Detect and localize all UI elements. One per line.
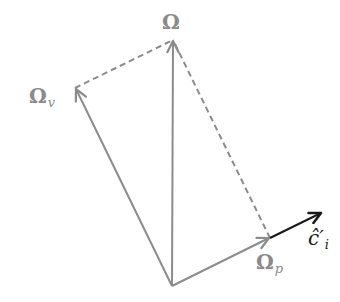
label-omega-p: Ωp: [256, 252, 283, 272]
label-c-hat-subscript: i: [325, 237, 329, 252]
label-omega-p-text: Ω: [256, 250, 274, 274]
label-c-hat-text: ĉ′: [308, 226, 324, 250]
label-c-hat-prime-i: ĉ′i: [308, 228, 329, 248]
label-omega-v: Ωv: [29, 86, 55, 106]
vector-omega-v: [76, 89, 172, 286]
dashed-line-omega-v-to-omega: [75, 40, 173, 88]
label-omega-v-subscript: v: [48, 95, 55, 110]
vector-omega: [172, 41, 173, 286]
label-omega-v-text: Ω: [29, 84, 47, 108]
vector-omega-p: [172, 238, 269, 286]
label-omega: Ω: [162, 12, 180, 32]
label-omega-p-subscript: p: [275, 261, 283, 276]
vector-decomposition-diagram: [0, 0, 340, 302]
label-omega-text: Ω: [162, 10, 180, 34]
dashed-line-omega-p-to-omega: [173, 40, 270, 238]
